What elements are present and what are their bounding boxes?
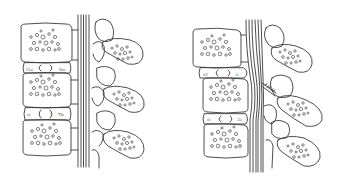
panel-normal: C(u Ibu ıı( Tbı <box>21 15 144 168</box>
svg-text:ɔ): ɔ) <box>235 72 239 77</box>
vertebra-body-3-h <box>204 124 248 158</box>
svg-text:ııC: ııC <box>203 72 208 77</box>
illustration-canvas: Normal spine segment: three vertebral bo… <box>0 0 340 189</box>
vertebra-body-2 <box>23 73 71 109</box>
vertebra-body-1-h <box>193 28 241 68</box>
svg-text:C(u: C(u <box>26 67 33 72</box>
svg-text:ıı(: ıı( <box>207 117 211 122</box>
spinous-process-3 <box>103 130 144 158</box>
svg-text:Ͻɔ: Ͻɔ <box>237 117 242 122</box>
spinous-process-1 <box>102 38 143 64</box>
vertebra-body-3 <box>23 120 71 157</box>
spinous-process-2 <box>103 86 144 112</box>
vertebra-body-2-h <box>203 78 248 113</box>
svg-text:ıı(: ıı( <box>27 112 31 117</box>
vertebra-body-1 <box>21 23 72 63</box>
svg-text:Ibu: Ibu <box>59 67 66 72</box>
spine-illustration: C(u Ibu ıı( Tbı <box>0 0 340 189</box>
spinous-process-3-h <box>277 136 320 166</box>
compressed-nerve-bundle <box>246 20 264 172</box>
spinal-nerve-bundle <box>78 15 89 167</box>
svg-text:Tbı: Tbı <box>57 112 64 117</box>
panel-herniated: ııC ɔ) ıı( Ͻɔ <box>193 20 322 172</box>
